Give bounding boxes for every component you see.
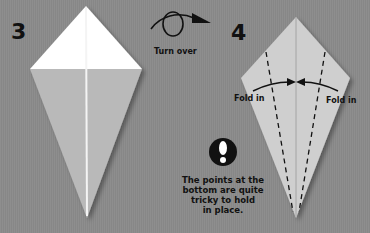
tip-text: The points at the bottom are quite trick…	[168, 175, 278, 215]
turn-over-arrow-icon	[151, 12, 211, 36]
tip-line-2: bottom are quite	[168, 185, 278, 195]
exclamation-icon	[209, 138, 237, 166]
step-number-3: 3	[11, 21, 26, 43]
step-number-4: 4	[231, 22, 246, 44]
turn-over-label: Turn over	[154, 47, 197, 56]
step-3-kite	[30, 6, 142, 218]
tip-line-4: in place.	[168, 205, 278, 215]
tip-line-3: tricky to hold	[168, 195, 278, 205]
fold-in-label-right: Fold in	[326, 96, 356, 105]
instruction-page: 3 4 Turn over Fold in Fold in The points…	[0, 0, 370, 233]
fold-in-label-left: Fold in	[234, 94, 264, 103]
tip-line-1: The points at the	[168, 175, 278, 185]
